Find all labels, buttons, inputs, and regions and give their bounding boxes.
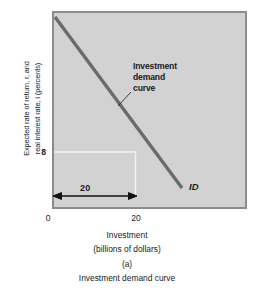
- x-axis-tick-20: 20: [126, 213, 146, 223]
- y-axis-label: Expected rate of return, r, and real int…: [22, 14, 43, 204]
- measurement-arrow-value: 20: [80, 183, 91, 193]
- caption-panel-label: (a): [0, 257, 254, 271]
- curve-annotation-label: Investment demand curve: [133, 61, 177, 95]
- curve-annotation-line-2: demand: [133, 72, 177, 83]
- curve-annotation-line-1: Investment: [133, 61, 177, 72]
- curve-id-label: ID: [189, 181, 199, 192]
- figure-caption: Investment (billions of dollars) (a) Inv…: [0, 228, 254, 285]
- investment-demand-figure: Expected rate of return, r, and real int…: [0, 0, 254, 301]
- y-axis-tick-8: 8: [32, 147, 46, 157]
- x-axis-tick-0: 0: [38, 213, 58, 223]
- curve-annotation-line-3: curve: [133, 83, 177, 94]
- caption-x-title-line-1: Investment: [0, 228, 254, 242]
- plot-area: [52, 11, 247, 209]
- caption-x-title-line-2: (billions of dollars): [0, 242, 254, 256]
- y-axis-label-line-1: Expected rate of return, r, and: [22, 14, 33, 204]
- y-axis-label-line-2: real interest rate, i (percents): [32, 14, 43, 204]
- caption-title: Investment demand curve: [0, 271, 254, 285]
